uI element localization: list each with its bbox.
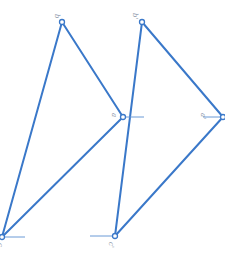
left-edge-top-right	[62, 22, 123, 117]
two-triangles-diagram: b a c b' a' c'	[0, 0, 225, 273]
vertex-right-top	[140, 20, 145, 25]
left-edge-right-bottom	[2, 117, 123, 237]
label-left-right: a	[110, 113, 118, 117]
right-edge-right-bottom	[115, 117, 223, 236]
label-right-bottom: c'	[107, 242, 115, 248]
right-edge-top-bottom	[115, 22, 142, 236]
label-left-bottom: c	[0, 243, 4, 247]
left-edge-top-bottom	[2, 22, 62, 237]
vertex-left-bottom	[0, 235, 5, 240]
vertex-left-right	[121, 115, 126, 120]
vertex-left-top	[60, 20, 65, 25]
vertex-right-right	[221, 115, 226, 120]
label-right-top: b'	[131, 13, 139, 19]
label-left-top: b	[53, 14, 61, 19]
right-edge-top-right	[142, 22, 223, 117]
vertex-right-bottom	[113, 234, 118, 239]
label-right-right: a'	[199, 113, 207, 119]
